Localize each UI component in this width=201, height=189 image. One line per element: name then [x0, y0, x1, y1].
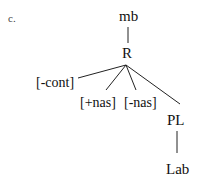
feature-tree-diagram: c. mb R [-cont] [+nas] [-nas] PL Lab [0, 0, 201, 189]
node-plus-nas: [+nas] [80, 96, 116, 110]
example-label: c. [8, 13, 16, 24]
node-PL: PL [167, 113, 185, 128]
edge-R-plusnas [106, 65, 126, 90]
node-minus-cont: [-cont] [36, 76, 74, 90]
node-R: R [122, 46, 132, 61]
node-mb: mb [119, 9, 138, 24]
edge-R-cont [78, 65, 126, 78]
node-Lab: Lab [166, 162, 189, 177]
node-minus-nas: [-nas] [124, 96, 157, 110]
